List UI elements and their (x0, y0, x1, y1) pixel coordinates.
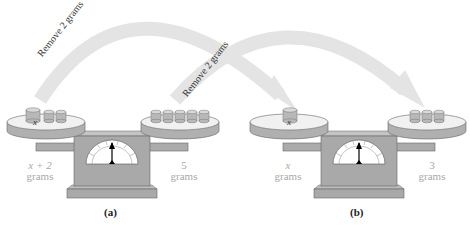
x-weight-label-a: x (32, 117, 37, 127)
right-pan-b (388, 110, 466, 139)
left-pan-a (7, 108, 85, 139)
balance-diagram: x x (0, 0, 470, 225)
label-right-b-unit: grams (414, 171, 450, 182)
label-left-a-unit: grams (22, 171, 58, 182)
label-right-b: 3 grams (414, 160, 450, 182)
label-left-b: x grams (270, 160, 306, 182)
label-left-b-unit: grams (270, 171, 306, 182)
label-left-a: x + 2 grams (22, 160, 58, 182)
x-weight-label-b: x (286, 117, 291, 127)
caption-a: (a) (104, 206, 117, 218)
label-right-a: 5 grams (166, 160, 202, 182)
label-right-a-unit: grams (166, 171, 202, 182)
right-pan-a (141, 110, 219, 139)
caption-b: (b) (350, 206, 363, 218)
